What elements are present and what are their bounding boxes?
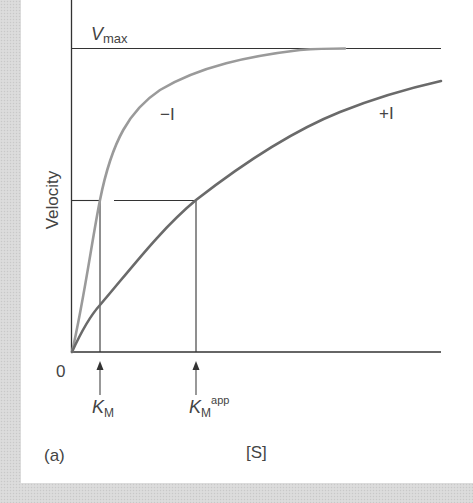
origin-label: 0 (56, 362, 65, 382)
vmax-label: Vmax (91, 24, 128, 45)
y-axis-label: Velocity (43, 171, 63, 230)
curve-minus-inhibitor (72, 49, 345, 353)
michaelis-menten-plot (0, 0, 473, 503)
km-label: KM (92, 397, 114, 418)
panel-label: (a) (44, 446, 65, 466)
curve-label-minus-inhibitor: −I (160, 105, 175, 125)
kmapp-arrow-icon (193, 361, 200, 370)
km-arrow-icon (97, 361, 104, 370)
kmapp-label-sup: app (211, 394, 229, 406)
kmapp-label: KMapp (189, 397, 229, 418)
vmax-label-sub: max (103, 31, 128, 46)
kmapp-label-main: K (189, 397, 201, 417)
km-label-main: K (92, 397, 104, 417)
vmax-label-main: V (91, 24, 103, 44)
curve-label-plus-inhibitor: +I (379, 104, 394, 124)
x-axis-label: [S] (246, 443, 267, 463)
km-label-sub: M (104, 406, 114, 420)
kmapp-label-sub: M (201, 406, 211, 420)
